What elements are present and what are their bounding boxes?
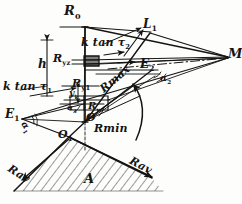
- label-M: M: [228, 47, 242, 60]
- label-k-tan-tau1: k tan τ1: [3, 81, 52, 95]
- label-E1: E1: [5, 108, 20, 123]
- label-k-tan-tau2: k tan τ2: [81, 37, 130, 51]
- diagram-canvas: R0 Ryz Ry1 Rw k tan τ2 k tan τ1 h yk E1 …: [0, 0, 242, 204]
- label-L1: L1: [143, 18, 157, 33]
- label-alpha3: α3: [67, 103, 77, 114]
- label-O1: O1: [58, 129, 73, 143]
- label-R0: R0: [64, 4, 81, 20]
- label-E2: E2: [140, 58, 155, 73]
- diagram-linework: [0, 0, 242, 204]
- label-alpha2: α2: [160, 74, 171, 85]
- label-h: h: [38, 58, 47, 70]
- label-A: A: [84, 172, 94, 185]
- label-Rmin: Rmin: [94, 123, 128, 134]
- label-yk: yk: [69, 89, 79, 100]
- label-Ryz: Ryz: [53, 53, 71, 67]
